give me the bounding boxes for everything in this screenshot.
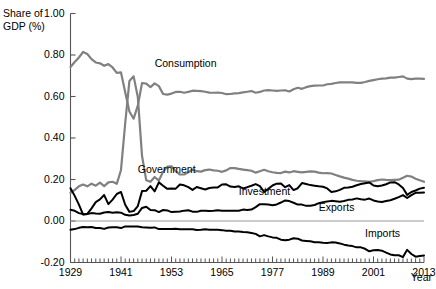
x-tick-label-6: 2001 [354,266,394,278]
y-tick-label-4: 0.20 [29,173,65,185]
series-label-imports: Imports [365,227,400,239]
y-tick-label-1: 0.80 [29,48,65,60]
x-tick-label-7: 2013 [404,266,436,278]
x-tick-label-1: 1941 [101,266,141,278]
series-label-consumption: Consumption [155,57,217,69]
y-tick-label-3: 0.40 [29,131,65,143]
y-tick-label-2: 0.60 [29,90,65,102]
y-tick-label-5: 0.00 [29,214,65,226]
chart-container: Share of GDP (%) Year 1.000.800.600.400.… [0,0,436,289]
y-tick-label-0: 1.00 [29,7,65,19]
x-axis [71,257,425,263]
chart-plot-area [0,0,436,289]
series-line-government [71,76,425,193]
x-tick-label-5: 1989 [303,266,343,278]
series-label-exports: Exports [319,201,355,213]
y-axis [71,14,76,263]
x-tick-label-0: 1929 [51,266,91,278]
series-line-consumption [71,52,425,119]
x-tick-label-3: 1965 [202,266,242,278]
x-tick-label-4: 1977 [253,266,293,278]
series-label-investment: Investment [239,185,290,197]
series-label-government: Government [138,163,196,175]
x-tick-label-2: 1953 [152,266,192,278]
